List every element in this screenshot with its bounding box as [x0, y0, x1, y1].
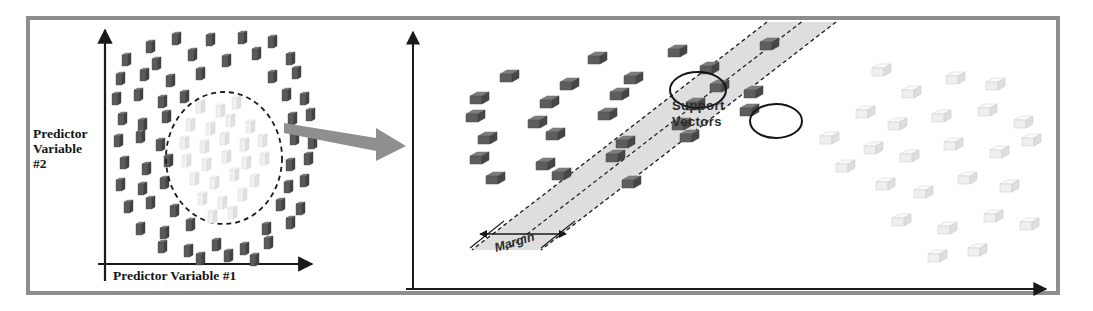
- y-label-line-1: Predictor: [33, 126, 87, 141]
- y-label-line-2: Variable: [33, 141, 82, 156]
- support-vector-circle-2: [750, 104, 802, 138]
- right-class-b-markers: [820, 64, 1041, 262]
- support-vectors-label: Support Vectors: [672, 98, 729, 129]
- left-x-axis-label: Predictor Variable #1: [113, 268, 236, 283]
- left-y-axis-label: Predictor Variable #2: [33, 126, 91, 171]
- kernel-transform-arrow: [284, 123, 406, 161]
- input-space-panel: Predictor Variable #2 Predictor Variable…: [33, 30, 317, 283]
- margin-band: [472, 22, 836, 250]
- feature-space-panel: Support Vectors Margin: [406, 22, 1046, 289]
- support-vectors-line-1: Support: [672, 98, 725, 113]
- left-class-b-markers: [180, 96, 269, 223]
- y-label-line-3: #2: [33, 156, 47, 171]
- left-class-a-markers: [112, 31, 317, 266]
- margin-band-fill: [472, 22, 836, 250]
- svm-illustration-figure: Predictor Variable #2 Predictor Variable…: [0, 0, 1093, 311]
- support-vectors-line-2: Vectors: [672, 114, 722, 129]
